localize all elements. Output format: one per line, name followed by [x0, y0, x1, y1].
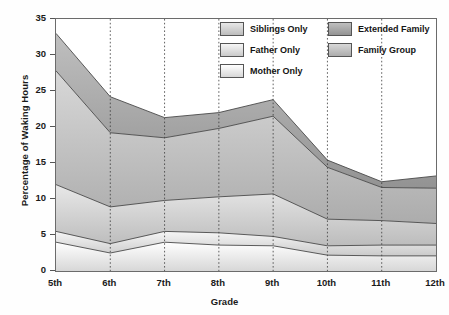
legend-swatch-icon	[220, 43, 244, 57]
y-tick-label: 0	[18, 264, 46, 275]
y-tick-label: 10	[18, 192, 46, 203]
legend-item: Family Group	[328, 43, 445, 57]
legend-item-label: Siblings Only	[250, 24, 308, 34]
x-tick-label: 12th	[415, 277, 449, 288]
chart-figure: Percentage of Waking Hours Grade 0510152…	[0, 0, 449, 315]
x-tick-label: 5th	[35, 277, 75, 288]
legend-column-right: Extended FamilyFamily Group	[328, 22, 445, 78]
y-tick-label: 30	[18, 48, 46, 59]
legend-item-label: Mother Only	[250, 66, 303, 76]
legend-column-left: Siblings OnlyFather OnlyMother Only	[220, 22, 328, 78]
x-tick-label: 7th	[144, 277, 184, 288]
x-tick-label: 11th	[361, 277, 401, 288]
x-tick-label: 9th	[252, 277, 292, 288]
legend-item-label: Family Group	[358, 45, 416, 55]
legend-item: Siblings Only	[220, 22, 328, 36]
y-tick-label: 25	[18, 84, 46, 95]
y-tick-label: 20	[18, 120, 46, 131]
legend-swatch-icon	[328, 22, 352, 36]
legend-item: Father Only	[220, 43, 328, 57]
legend-swatch-icon	[220, 22, 244, 36]
y-tick-label: 15	[18, 156, 46, 167]
chart-legend: Siblings OnlyFather OnlyMother Only Exte…	[220, 22, 445, 78]
legend-swatch-icon	[328, 43, 352, 57]
y-axis-title: Percentage of Waking Hours	[19, 41, 30, 241]
x-axis-title: Grade	[0, 296, 449, 307]
legend-item: Mother Only	[220, 64, 328, 78]
legend-item: Extended Family	[328, 22, 445, 36]
x-tick-label: 8th	[198, 277, 238, 288]
legend-item-label: Extended Family	[358, 24, 430, 34]
y-tick-label: 35	[18, 12, 46, 23]
legend-swatch-icon	[220, 64, 244, 78]
y-tick-label: 5	[18, 228, 46, 239]
x-tick-label: 6th	[89, 277, 129, 288]
x-tick-label: 10th	[306, 277, 346, 288]
legend-item-label: Father Only	[250, 45, 300, 55]
